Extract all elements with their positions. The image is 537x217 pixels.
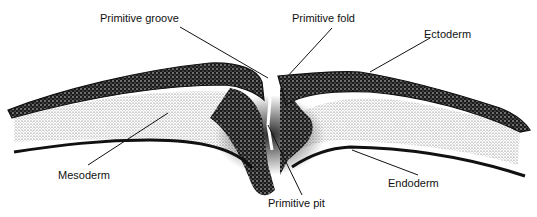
label-primitive-groove: Primitive groove: [100, 12, 179, 24]
label-primitive-fold: Primitive fold: [292, 12, 355, 24]
label-primitive-pit: Primitive pit: [268, 197, 325, 209]
diagram-canvas: Primitive groove Primitive fold Ectoderm…: [0, 0, 537, 217]
label-ectoderm: Ectoderm: [424, 28, 471, 40]
label-mesoderm: Mesoderm: [58, 169, 110, 181]
leader-endoderm: [352, 150, 418, 175]
leader-primitive-fold: [286, 28, 332, 78]
leader-ectoderm: [370, 38, 430, 72]
label-endoderm: Endoderm: [388, 177, 439, 189]
